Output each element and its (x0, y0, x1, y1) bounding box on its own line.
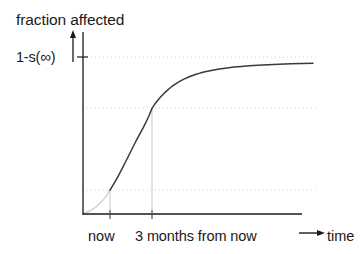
vertical-gridlines (110, 108, 152, 219)
curve-faint-segment (84, 190, 110, 213)
infinity-icon: ∞ (40, 48, 51, 65)
y-axis-tick-label-asymptote: 1-s(∞) (16, 49, 55, 65)
x-axis-tick-label-three-months: 3 months from now (135, 229, 257, 244)
chart-axis-title-x: time (327, 229, 354, 244)
horizontal-gridlines (83, 57, 316, 190)
y-tick-suffix: ) (51, 49, 56, 65)
chart-figure: fraction affected 1-s(∞) now 3 months fr… (0, 0, 363, 254)
chart-axis-title-y: fraction affected (16, 12, 124, 28)
y-tick-prefix: 1-s( (16, 49, 40, 65)
right-arrow-icon (299, 230, 325, 236)
x-axis-tick-label-now: now (88, 229, 115, 244)
chart-canvas (0, 0, 363, 254)
up-arrow-icon (70, 30, 76, 62)
curve-main (110, 63, 313, 190)
